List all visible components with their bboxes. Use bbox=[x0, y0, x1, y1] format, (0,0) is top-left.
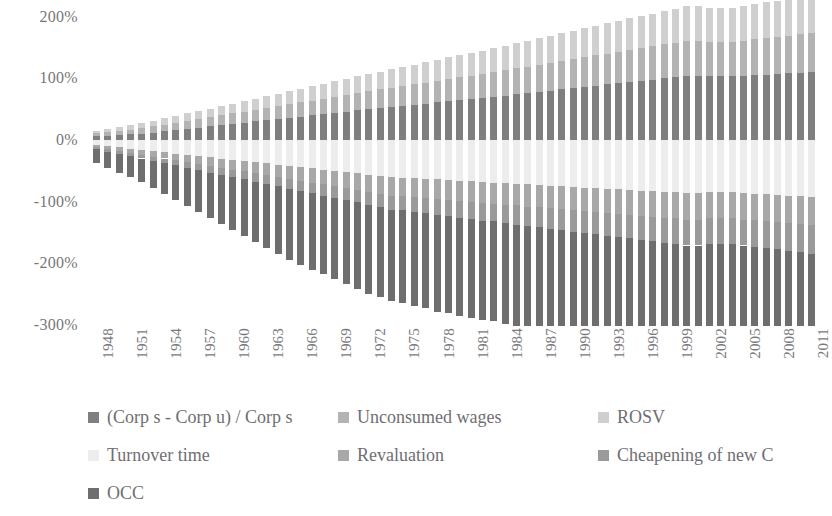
bar-segment bbox=[399, 140, 406, 178]
bar-segment bbox=[320, 99, 327, 114]
x-axis-tick-label: 2011 bbox=[815, 328, 832, 358]
bar-segment bbox=[570, 59, 577, 88]
bar-segment bbox=[229, 140, 236, 160]
legend-item[interactable]: Revaluation bbox=[338, 446, 444, 464]
bar-1974 bbox=[388, 0, 395, 326]
bar-segment bbox=[649, 46, 656, 79]
bar-segment bbox=[184, 113, 191, 120]
bar-segment bbox=[195, 128, 202, 140]
bar-segment bbox=[695, 76, 702, 140]
bar-segment bbox=[649, 140, 656, 191]
bar-segment bbox=[320, 184, 327, 195]
bar-segment bbox=[150, 121, 157, 127]
bar-segment bbox=[661, 44, 668, 78]
bar-segment bbox=[706, 42, 713, 77]
bar-segment bbox=[626, 82, 633, 140]
bar-1951 bbox=[127, 0, 134, 326]
legend-item[interactable]: Cheapening of new C bbox=[598, 446, 773, 464]
bar-1982 bbox=[479, 0, 486, 326]
bar-segment bbox=[411, 140, 418, 178]
bar-segment bbox=[468, 202, 475, 219]
bar-segment bbox=[729, 42, 736, 77]
bar-segment bbox=[456, 77, 463, 100]
bar-segment bbox=[354, 76, 361, 93]
bar-segment bbox=[468, 53, 475, 76]
bar-segment bbox=[434, 140, 441, 179]
bar-segment bbox=[763, 194, 770, 221]
bar-segment bbox=[399, 106, 406, 140]
bar-segment bbox=[751, 194, 758, 221]
legend-item[interactable]: Turnover time bbox=[88, 446, 210, 464]
bar-segment bbox=[377, 194, 384, 208]
bar-1949 bbox=[104, 0, 111, 326]
bar-segment bbox=[445, 57, 452, 79]
bar-segment bbox=[331, 113, 338, 140]
bar-segment bbox=[751, 39, 758, 75]
y-axis-tick-label: 200% bbox=[39, 8, 78, 26]
bar-segment bbox=[592, 188, 599, 212]
bar-1972 bbox=[365, 0, 372, 326]
bar-segment bbox=[592, 140, 599, 188]
bar-segment bbox=[661, 192, 668, 218]
bar-segment bbox=[377, 140, 384, 176]
bar-1980 bbox=[456, 0, 463, 326]
bar-segment bbox=[263, 96, 270, 108]
bar-segment bbox=[751, 75, 758, 140]
bar-segment bbox=[717, 8, 724, 42]
bar-segment bbox=[479, 221, 486, 320]
y-axis-tick-label: -300% bbox=[34, 316, 78, 334]
bar-1970 bbox=[343, 0, 350, 326]
bar-segment bbox=[207, 140, 214, 157]
bar-segment bbox=[706, 140, 713, 192]
bar-segment bbox=[479, 74, 486, 98]
x-axis-tick-label: 1957 bbox=[202, 328, 219, 359]
bar-segment bbox=[343, 112, 350, 140]
bar-segment bbox=[638, 216, 645, 240]
legend-item[interactable]: OCC bbox=[88, 484, 144, 502]
bar-segment bbox=[547, 63, 554, 91]
x-axis-tick-label: 1996 bbox=[645, 328, 662, 359]
bar-segment bbox=[592, 234, 599, 326]
legend-item[interactable]: ROSV bbox=[598, 408, 665, 426]
bar-segment bbox=[729, 76, 736, 140]
bar-segment bbox=[275, 119, 282, 140]
bar-segment bbox=[354, 140, 361, 173]
x-axis-tick-label: 1984 bbox=[509, 328, 526, 359]
bar-segment bbox=[502, 223, 509, 324]
bar-segment bbox=[286, 166, 293, 179]
bar-segment bbox=[581, 211, 588, 233]
bar-segment bbox=[207, 173, 214, 219]
bar-1973 bbox=[377, 0, 384, 326]
bar-segment bbox=[399, 86, 406, 106]
bar-segment bbox=[172, 123, 179, 130]
y-axis-tick-label: -200% bbox=[34, 254, 78, 272]
bar-segment bbox=[524, 207, 531, 227]
bar-segment bbox=[626, 50, 633, 82]
chart-legend: (Corp s - Corp u) / Corp sUnconsumed wag… bbox=[88, 408, 820, 516]
bar-segment bbox=[297, 191, 304, 265]
bar-segment bbox=[774, 37, 781, 74]
bar-1961 bbox=[241, 0, 248, 326]
bar-segment bbox=[138, 140, 145, 150]
bar-segment bbox=[218, 140, 225, 159]
bar-segment bbox=[672, 244, 679, 326]
bar-segment bbox=[399, 178, 406, 197]
bar-segment bbox=[751, 140, 758, 194]
bar-segment bbox=[695, 6, 702, 41]
bar-segment bbox=[331, 97, 338, 113]
bar-segment bbox=[411, 178, 418, 197]
bar-segment bbox=[513, 43, 520, 68]
bar-segment bbox=[161, 163, 168, 194]
legend-item[interactable]: Unconsumed wages bbox=[338, 408, 501, 426]
bar-segment bbox=[536, 38, 543, 65]
bar-segment bbox=[207, 126, 214, 140]
legend-swatch-icon bbox=[338, 412, 349, 423]
bar-segment bbox=[683, 193, 690, 220]
bar-segment bbox=[388, 196, 395, 210]
legend-item[interactable]: (Corp s - Corp u) / Corp s bbox=[88, 408, 293, 426]
bar-1966 bbox=[297, 0, 304, 326]
bar-segment bbox=[808, 0, 815, 33]
bar-segment bbox=[241, 123, 248, 140]
bar-segment bbox=[536, 185, 543, 207]
bar-segment bbox=[570, 187, 577, 210]
